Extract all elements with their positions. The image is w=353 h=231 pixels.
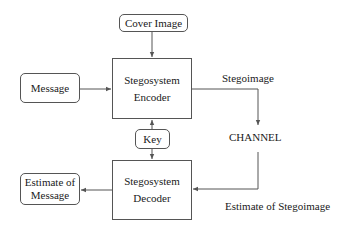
decoder-node: Stegosystem Decoder [112,160,192,220]
estimate-of-stegoimage-label: Estimate of Stegoimage [225,200,330,213]
message-label: Message [31,82,70,95]
encoder-label-line2: Encoder [134,89,171,106]
cover-image-label: Cover Image [125,17,182,30]
key-node: Key [135,129,170,149]
key-label: Key [143,133,161,146]
decoder-label-line1: Stegosystem [124,173,180,190]
encoder-node: Stegosystem Encoder [112,58,192,119]
channel-label: CHANNEL [229,131,282,144]
message-node: Message [20,73,80,103]
encoder-label-line1: Stegosystem [124,72,180,89]
stegoimage-label: Stegoimage [222,72,274,85]
estimate-of-message-line1: Estimate of [25,176,75,189]
estimate-of-message-node: Estimate of Message [20,173,80,205]
decoder-label-line2: Decoder [133,190,170,207]
estimate-of-message-line2: Message [31,189,70,202]
cover-image-node: Cover Image [119,14,188,32]
